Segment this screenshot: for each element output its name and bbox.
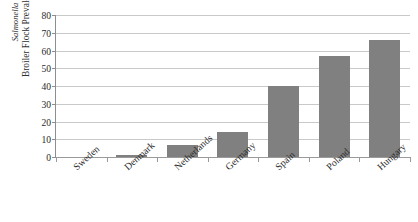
y-tick-label-40: 40 bbox=[41, 81, 51, 92]
y-axis-title-species: Salmonella bbox=[11, 3, 21, 42]
bar-slot-netherlands bbox=[157, 15, 208, 157]
x-tick-mark-origin bbox=[56, 157, 57, 162]
bar-slot-germany bbox=[208, 15, 259, 157]
bar-hungary bbox=[369, 40, 400, 157]
bar-poland bbox=[319, 56, 350, 157]
y-tick-label-0: 0 bbox=[46, 152, 51, 163]
y-axis-title: Salmonella Broiler Flock Prevalence (%) bbox=[6, 0, 36, 98]
x-tick-mark-2 bbox=[208, 157, 209, 162]
x-tick-mark-4 bbox=[309, 157, 310, 162]
y-tick-label-60: 60 bbox=[41, 45, 51, 56]
x-tick-mark-1 bbox=[157, 157, 158, 162]
x-tick-mark-6 bbox=[410, 157, 411, 162]
x-tick-mark-0 bbox=[107, 157, 108, 162]
bar-slot-poland bbox=[309, 15, 360, 157]
y-tick-label-20: 20 bbox=[41, 116, 51, 127]
y-tick-label-30: 30 bbox=[41, 98, 51, 109]
cropped-caption-remnant: . . . . . . . . bbox=[0, 0, 418, 1]
salmonella-prevalence-bar-chart: . . . . . . . . Salmonella Broiler Flock… bbox=[0, 0, 418, 222]
bar-slot-hungary bbox=[359, 15, 410, 157]
y-tick-label-10: 10 bbox=[41, 134, 51, 145]
x-tick-mark-3 bbox=[258, 157, 259, 162]
plot-area: 01020304050607080 bbox=[56, 15, 410, 157]
bar-slot-denmark bbox=[107, 15, 158, 157]
bar-spain bbox=[268, 86, 299, 157]
y-tick-label-70: 70 bbox=[41, 27, 51, 38]
bar-series bbox=[56, 15, 410, 157]
y-tick-label-80: 80 bbox=[41, 10, 51, 21]
bar-slot-spain bbox=[258, 15, 309, 157]
bar-slot-sweden bbox=[56, 15, 107, 157]
x-tick-mark-5 bbox=[359, 157, 360, 162]
y-axis-title-measure: Broiler Flock Prevalence (%) bbox=[21, 0, 32, 77]
y-tick-label-50: 50 bbox=[41, 63, 51, 74]
